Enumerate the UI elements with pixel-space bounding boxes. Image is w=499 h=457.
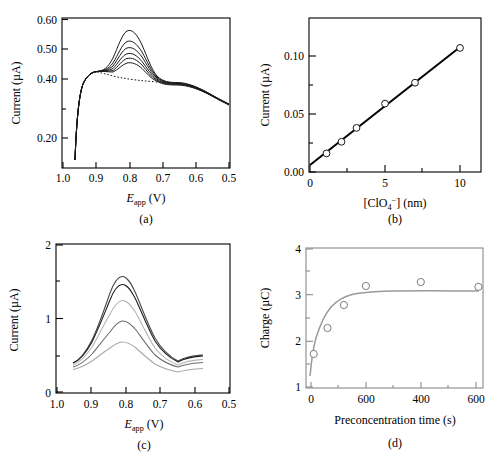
panel-b-y-ticks <box>309 56 316 172</box>
panel-c-xtick-1: 0.9 <box>84 398 99 410</box>
panel-b-point-5 <box>412 79 419 86</box>
panel-c-xtick-0: 1.0 <box>50 398 65 410</box>
panel-c-ytick-0: 2 <box>45 239 51 251</box>
panel-c-xtick-3: 0.7 <box>153 398 168 410</box>
panel-c-xaxis-title: Eapp (V) <box>124 417 164 433</box>
panel-c-y-ticks <box>56 245 63 392</box>
panel-a-xtick-5: 0.5 <box>222 172 237 184</box>
panel-b-ytick-2: 0.00 <box>284 166 304 178</box>
panel-a-xtick-2: 0.8 <box>123 172 138 184</box>
panel-c-curves <box>73 276 203 372</box>
panel-a-y-ticks <box>62 20 68 139</box>
panel-a-xtick-0: 1.0 <box>56 172 71 184</box>
panel-d-ytick-2: 2 <box>295 335 301 347</box>
panel-d-xtick-0: 0 <box>308 393 314 405</box>
panel-d-xtick-1: 600 <box>357 393 375 405</box>
panel-a-curve-6 <box>75 63 229 160</box>
panel-d-ytick-0: 4 <box>295 243 301 255</box>
panel-c: 2 1 0 1.0 0.9 0.8 0.7 0.6 0.5 <box>0 228 250 457</box>
panel-b-point-3 <box>353 125 360 132</box>
panel-b-point-4 <box>382 100 389 107</box>
panel-b-xtick-0: 0 <box>307 177 313 189</box>
panel-a-ytick-0: 0.60 <box>37 14 57 26</box>
panel-a-curve-2 <box>75 41 229 160</box>
panel-c-curve-2 <box>73 284 203 363</box>
panel-b-x-ticks <box>310 165 460 172</box>
panel-b-point-1 <box>323 150 330 157</box>
panel-d-fit-curve <box>310 291 479 376</box>
panel-c-ytick-1: 1 <box>45 313 51 325</box>
panel-a-ytick-1: 0.50 <box>37 43 57 55</box>
panel-b-point-2 <box>338 138 345 145</box>
panel-c-xtick-5: 0.5 <box>222 398 237 410</box>
panel-a-curve-1 <box>75 30 229 160</box>
panel-b-plot-frame <box>309 18 481 172</box>
panel-a-xtick-4: 0.6 <box>189 172 204 184</box>
panel-d-point-5 <box>417 278 424 285</box>
panel-d-point-1 <box>310 350 317 357</box>
panel-a-xaxis-title: Eapp (V) <box>126 191 166 207</box>
panel-a-curve-4 <box>75 53 229 160</box>
panel-b-point-6 <box>457 45 464 52</box>
panel-b-ytick-1: 0.05 <box>284 108 304 120</box>
panel-a-curve-3 <box>75 48 229 160</box>
panel-d-x-ticks <box>311 382 476 388</box>
panel-c-caption: (c) <box>137 438 150 452</box>
panel-d-y-ticks <box>306 249 313 387</box>
panel-c-plot-frame <box>56 244 230 393</box>
panel-b: 0.10 0.05 0.00 0 5 10 <box>249 0 499 228</box>
panel-a-caption: (a) <box>139 212 152 226</box>
panel-d-point-6 <box>475 283 482 290</box>
panel-a-x-ticks <box>63 162 229 168</box>
panel-d-yaxis-title: Charge (µC) <box>258 288 272 348</box>
panel-b-xtick-2: 10 <box>454 177 466 189</box>
panel-d-point-3 <box>340 301 347 308</box>
panel-a-ytick-2: 0.40 <box>37 73 57 85</box>
panel-d-point-4 <box>362 282 369 289</box>
panel-c-x-ticks <box>57 387 229 393</box>
panel-d-plot-frame <box>306 248 483 388</box>
panel-d-point-2 <box>324 324 331 331</box>
figure-container: 0.60 0.50 0.40 0.20 1.0 0.9 0.8 0.7 0.6 … <box>0 0 499 457</box>
panel-a-curves <box>75 30 229 160</box>
panel-d-xaxis-title: Preconcentration time (s) <box>334 413 455 427</box>
panel-b-yaxis-title: Current (µA) <box>258 63 272 126</box>
panel-b-xaxis-title: [ClO4−] (nm) <box>363 196 426 212</box>
panel-b-caption: (b) <box>388 212 402 226</box>
panel-d-caption: (d) <box>388 436 402 450</box>
panel-c-xtick-4: 0.6 <box>188 398 203 410</box>
panel-d-ytick-1: 3 <box>295 289 301 301</box>
panel-d-xtick-3: 600 <box>467 393 485 405</box>
panel-c-xtick-2: 0.8 <box>119 398 134 410</box>
panel-a-ytick-3: 0.20 <box>37 132 57 144</box>
panel-a-xtick-1: 0.9 <box>89 172 104 184</box>
panel-a: 0.60 0.50 0.40 0.20 1.0 0.9 0.8 0.7 0.6 … <box>0 0 250 228</box>
panel-d-xtick-2: 400 <box>412 393 430 405</box>
panel-d-ytick-3: 1 <box>295 381 301 393</box>
panel-c-yaxis-title: Current (µA) <box>7 288 21 351</box>
panel-b-xtick-1: 5 <box>382 177 388 189</box>
panel-a-curve-5 <box>75 58 229 160</box>
panel-a-yaxis-title: Current (µA) <box>9 61 23 124</box>
panel-d: 4 3 2 1 0 600 400 600 <box>249 228 499 457</box>
panel-a-xtick-3: 0.7 <box>156 172 171 184</box>
panel-b-ytick-0: 0.10 <box>284 50 304 62</box>
